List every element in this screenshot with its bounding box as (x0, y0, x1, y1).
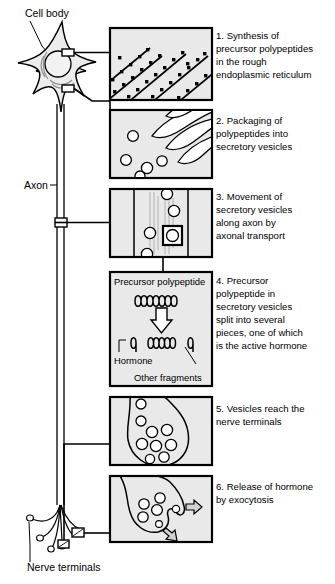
panel-6[interactable]: 6. Release of hormone by exocytosis (110, 474, 313, 542)
panel-2-vesicle-4 (157, 156, 167, 166)
panel-5-caption-line-1: 5. Vesicles reach the (216, 403, 305, 414)
panel-3-vesicle-3 (144, 227, 155, 238)
panel-5-caption-line-2: nerve terminals (216, 416, 282, 427)
panel-5-vesicle-7 (165, 439, 176, 450)
panel-5-vesicle-9 (145, 454, 154, 463)
terminal-branch-1 (32, 505, 60, 521)
panel-2-vesicle-5 (135, 171, 145, 181)
panel-4[interactable]: Precursor polypeptide Hormone Other frag… (110, 272, 307, 386)
panel-4-caption-line-1: 4. Precursor (216, 275, 269, 286)
panel-3-vesicle-highlighted (167, 230, 179, 242)
panel-1-caption-line-3: in the rough (216, 56, 267, 67)
panel-6-vesicle-4 (138, 512, 148, 522)
panel-3-vesicle-2 (168, 205, 179, 216)
panel-5-vesicle-3 (146, 426, 157, 437)
panel-4-other-fragments-label: Other fragments (134, 372, 202, 383)
axon-label: Axon (24, 179, 48, 191)
panel-6-caption-line-1: 6. Release of hormone (216, 481, 313, 492)
panel-4-caption-line-6: is the active hormone (216, 340, 307, 351)
panel-6-fusing-vesicle (172, 505, 179, 512)
panel-2-vesicle-1 (128, 131, 139, 142)
panel-2-vesicle-2 (121, 155, 132, 166)
panel-3[interactable]: 3. Movement of secretory vesicles along … (110, 188, 292, 259)
panel-2[interactable]: 2. Packaging of polypeptides into secret… (110, 96, 292, 181)
callout-box-panel-1[interactable] (62, 49, 74, 56)
nerve-terminals-label: Nerve terminals (27, 561, 101, 573)
panel-5-vesicle-4 (161, 424, 172, 435)
panel-6-vesicle-1 (139, 499, 149, 509)
callout-box-panel-2[interactable] (62, 85, 74, 92)
panel-3-frame (110, 189, 212, 257)
panel-6-vesicle-3 (152, 505, 163, 516)
panel-4-caption-line-2: polypeptide in (216, 288, 275, 299)
panel-4-caption-line-3: secretory vesicles (216, 301, 292, 312)
terminal-bulb-1 (27, 515, 34, 521)
panel-5-vesicle-5 (136, 438, 147, 449)
panel-5-vesicle-2 (136, 416, 146, 426)
terminal-bulb-3 (48, 546, 54, 552)
panel-6-released-vesicle (156, 521, 163, 528)
panel-3-caption-line-3: along axon by (216, 217, 276, 228)
panel-3-vesicle-1 (161, 188, 172, 199)
panel-6-caption-line-2: by exocytosis (216, 494, 274, 505)
terminal-bulb-2 (37, 535, 44, 541)
panel-1-caption-line-2: precursor polypeptides (216, 43, 313, 54)
panel-3-caption-line-4: axonal transport (216, 230, 285, 241)
cell-body-label: Cell body (25, 7, 70, 19)
panel-2-caption-line-3: secretory vesicles (216, 141, 292, 152)
nerve-terminals-leader-line (29, 522, 30, 562)
panel-5-vesicle-1 (136, 399, 146, 409)
connector-panel-2 (74, 89, 110, 143)
panel-1-caption-line-1: 1. Synthesis of (216, 30, 279, 41)
neuron-illustration: Cell body Axon (18, 7, 101, 573)
panel-1-caption-line-4: endoplasmic reticulum (216, 69, 311, 80)
panel-2-caption-line-1: 2. Packaging of (216, 115, 282, 126)
panel-6-vesicle-2 (155, 493, 165, 503)
panel-3-caption-line-2: secretory vesicles (216, 204, 292, 215)
neuron-secretion-diagram: Cell body Axon (0, 0, 335, 584)
panel-2-caption-line-2: polypeptides into (216, 128, 288, 139)
panel-4-caption-line-5: pieces, one of which (216, 327, 303, 338)
panel-4-caption-line-4: split into several (216, 314, 285, 325)
panel-4-precursor-label: Precursor polypeptide (114, 276, 205, 287)
panel-3-caption-line-1: 3. Movement of (216, 191, 282, 202)
connector-panel-5 (64, 444, 110, 540)
panel-4-hormone-label: Hormone (114, 355, 153, 366)
panel-1[interactable]: 1. Synthesis of precursor polypeptides i… (104, 28, 313, 104)
panel-5-vesicle-6 (150, 440, 161, 451)
panel-5[interactable]: 5. Vesicles reach the nerve terminals (110, 393, 305, 467)
panel-5-vesicle-8 (159, 452, 169, 462)
